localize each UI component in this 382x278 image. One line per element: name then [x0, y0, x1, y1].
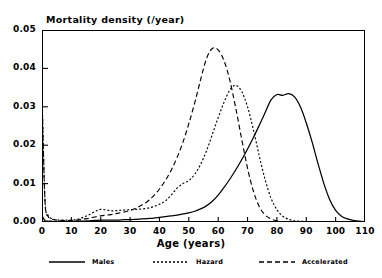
legend-item-hazard[interactable]: Hazard	[152, 254, 223, 270]
y-tick-label: 0.00	[0, 216, 36, 226]
legend-label: Males	[92, 258, 114, 266]
chart-legend: MalesHazardAccelerated	[0, 254, 382, 270]
x-tick-label: 0	[29, 226, 55, 236]
y-tick-label: 0.01	[0, 178, 36, 188]
legend-swatch-dashed-icon	[258, 258, 296, 266]
x-tick-label: 80	[264, 226, 290, 236]
legend-item-males[interactable]: Males	[48, 254, 114, 270]
x-tick-label: 10	[58, 226, 84, 236]
x-tick-label: 110	[352, 226, 378, 236]
x-tick-label: 90	[293, 226, 319, 236]
x-tick-label: 70	[235, 226, 261, 236]
chart-figure: Mortality density (/year) 0.000.010.020.…	[0, 0, 382, 278]
y-tick-label: 0.04	[0, 62, 36, 72]
legend-label: Accelerated	[302, 258, 348, 266]
y-tick-label: 0.05	[0, 24, 36, 34]
x-tick-label: 60	[205, 226, 231, 236]
legend-item-accelerated[interactable]: Accelerated	[258, 254, 348, 270]
legend-label: Hazard	[196, 258, 223, 266]
x-tick-label: 50	[176, 226, 202, 236]
x-tick-label: 40	[146, 226, 172, 236]
x-tick-label: 100	[323, 226, 349, 236]
y-tick-label: 0.03	[0, 101, 36, 111]
chart-title: Mortality density (/year)	[46, 14, 185, 25]
x-tick-label: 20	[88, 226, 114, 236]
legend-swatch-solid-icon	[48, 258, 86, 266]
x-tick-label: 30	[117, 226, 143, 236]
legend-swatch-dotted-icon	[152, 258, 190, 266]
plot-area	[42, 30, 365, 222]
y-tick-label: 0.02	[0, 139, 36, 149]
x-axis-label: Age (years)	[0, 238, 382, 249]
